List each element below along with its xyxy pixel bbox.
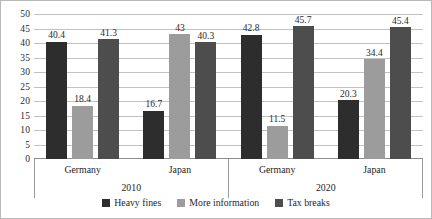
bar-wrap: 43 [169, 14, 190, 159]
bar-value-label: 20.3 [340, 90, 357, 100]
x-label-germany-2020: Germany [232, 160, 321, 175]
bar-value-label: 45.4 [392, 17, 409, 27]
bar-wrap: 16.7 [143, 14, 164, 159]
chart-legend: Heavy fines More information Tax breaks [1, 198, 431, 208]
bar-heavy-fines-germany-2020[interactable]: 42.8 [241, 35, 262, 159]
bar-tax-breaks-japan-2020[interactable]: 45.4 [390, 27, 411, 159]
bar-groups: 40.4 18.4 41.3 [34, 14, 423, 159]
bar-value-label: 40.4 [48, 31, 65, 41]
y-tick-45: 45 [4, 25, 30, 35]
x-label-japan-2020: Japan [330, 160, 419, 175]
y-tick-10: 10 [4, 126, 30, 136]
y-tick-15: 15 [4, 112, 30, 122]
bar-value-label: 40.3 [198, 32, 215, 42]
bar-wrap: 20.3 [338, 14, 359, 159]
bar-wrap: 41.3 [98, 14, 119, 159]
bar-value-label: 34.4 [366, 49, 383, 59]
y-tick-30: 30 [4, 68, 30, 78]
bar-value-label: 43 [175, 24, 185, 34]
legend-swatch-icon [275, 199, 283, 207]
legend-label: Tax breaks [287, 198, 330, 208]
x-label-year-2020: 2020 [229, 175, 424, 193]
legend-item-more-information[interactable]: More information [177, 198, 259, 208]
y-tick-5: 5 [4, 141, 30, 151]
legend-label: Heavy fines [114, 198, 161, 208]
bar-heavy-fines-japan-2010[interactable]: 16.7 [143, 111, 164, 159]
legend-swatch-icon [102, 199, 110, 207]
bar-more-information-germany-2010[interactable]: 18.4 [72, 106, 93, 159]
legend-label: More information [189, 198, 259, 208]
year-group-2020: 42.8 11.5 45.7 [229, 14, 424, 159]
bar-tax-breaks-germany-2020[interactable]: 45.7 [293, 26, 314, 159]
x-label-japan-2010: Japan [135, 160, 224, 175]
bar-wrap: 11.5 [267, 14, 288, 159]
bar-chart: 50 45 40 35 30 25 20 15 10 5 0 [0, 0, 432, 219]
bar-wrap: 45.4 [390, 14, 411, 159]
bar-heavy-fines-germany-2010[interactable]: 40.4 [46, 42, 67, 159]
legend-item-heavy-fines[interactable]: Heavy fines [102, 198, 161, 208]
bar-wrap: 40.3 [195, 14, 216, 159]
bar-more-information-japan-2010[interactable]: 43 [169, 34, 190, 159]
bar-value-label: 11.5 [269, 115, 285, 125]
cluster-germany-2020: 42.8 11.5 45.7 [232, 14, 321, 159]
y-tick-35: 35 [4, 54, 30, 64]
bar-value-label: 42.8 [243, 24, 260, 34]
bar-value-label: 45.7 [295, 16, 312, 26]
bar-wrap: 42.8 [241, 14, 262, 159]
y-tick-50: 50 [4, 10, 30, 20]
bar-more-information-japan-2020[interactable]: 34.4 [364, 59, 385, 159]
plot-area: 40.4 18.4 41.3 [34, 14, 423, 159]
y-axis-labels: 50 45 40 35 30 25 20 15 10 5 0 [1, 14, 30, 159]
bar-value-label: 18.4 [74, 95, 91, 105]
bar-value-label: 16.7 [146, 100, 163, 110]
bar-wrap: 18.4 [72, 14, 93, 159]
bar-value-label: 41.3 [100, 29, 117, 39]
x-axis-group-2020: Germany Japan 2020 [229, 160, 424, 193]
bar-more-information-germany-2020[interactable]: 11.5 [267, 126, 288, 159]
bar-heavy-fines-japan-2020[interactable]: 20.3 [338, 100, 359, 159]
x-axis-group-2010: Germany Japan 2010 [34, 160, 229, 193]
bar-tax-breaks-germany-2010[interactable]: 41.3 [98, 39, 119, 159]
bar-wrap: 45.7 [293, 14, 314, 159]
y-tick-20: 20 [4, 97, 30, 107]
y-tick-40: 40 [4, 39, 30, 49]
cluster-japan-2020: 20.3 34.4 45.4 [330, 14, 419, 159]
bar-tax-breaks-japan-2010[interactable]: 40.3 [195, 42, 216, 159]
x-label-year-2010: 2010 [34, 175, 229, 193]
legend-item-tax-breaks[interactable]: Tax breaks [275, 198, 330, 208]
x-label-germany-2010: Germany [38, 160, 127, 175]
bar-wrap: 40.4 [46, 14, 67, 159]
legend-swatch-icon [177, 199, 185, 207]
cluster-japan-2010: 16.7 43 40.3 [135, 14, 224, 159]
bar-wrap: 34.4 [364, 14, 385, 159]
y-tick-25: 25 [4, 83, 30, 93]
y-tick-0: 0 [4, 155, 30, 165]
year-group-2010: 40.4 18.4 41.3 [34, 14, 229, 159]
cluster-germany-2010: 40.4 18.4 41.3 [38, 14, 127, 159]
x-axis-labels: Germany Japan 2010 Germany Japan 2020 [34, 160, 423, 198]
